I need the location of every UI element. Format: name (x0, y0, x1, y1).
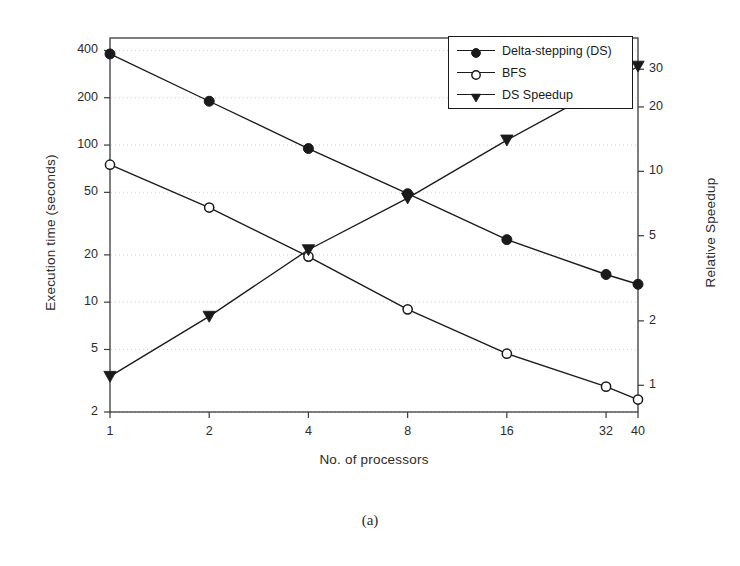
filled-triangle-marker-icon (457, 88, 495, 102)
data-point-marker (205, 203, 214, 212)
x-tick-label: 40 (616, 424, 660, 438)
legend-label-ds-speedup: DS Speedup (502, 88, 573, 102)
y-tick-label-right: 5 (649, 228, 693, 242)
filled-circle-marker-icon (457, 44, 495, 58)
y-tick-label-left: 50 (54, 184, 98, 198)
data-point-marker (601, 270, 611, 280)
data-point-marker (104, 371, 116, 382)
legend-item-ds-speedup: DS Speedup (457, 85, 573, 105)
x-tick-label: 1 (88, 424, 132, 438)
data-point-marker (403, 305, 412, 314)
series-line-1 (110, 165, 638, 400)
series-line-2 (110, 66, 638, 376)
y-tick-label-left: 400 (54, 42, 98, 56)
data-point-marker (203, 311, 215, 322)
y-tick-label-right: 10 (649, 163, 693, 177)
data-point-marker (632, 61, 644, 72)
x-tick-label: 8 (386, 424, 430, 438)
data-point-marker (401, 193, 413, 204)
x-tick-label: 16 (485, 424, 529, 438)
chart-legend: Delta-stepping (DS) BFS (448, 36, 633, 109)
data-point-marker (502, 349, 511, 358)
x-tick-label: 4 (286, 424, 330, 438)
open-circle-marker-icon (457, 66, 495, 80)
y-tick-label-left: 10 (54, 294, 98, 308)
figure-caption: (a) (0, 512, 740, 529)
y-tick-label-left: 200 (54, 90, 98, 104)
y-tick-label-left: 5 (54, 341, 98, 355)
data-point-marker (633, 395, 642, 404)
y-tick-label-left: 20 (54, 247, 98, 261)
x-axis-label: No. of processors (110, 452, 638, 467)
figure-panel: Execution time (seconds) Relative Speedu… (0, 0, 740, 566)
y-axis-label-right: Relative Speedup (703, 123, 718, 343)
data-point-marker (601, 382, 610, 391)
y-tick-label-right: 30 (649, 61, 693, 75)
y-tick-label-right: 20 (649, 99, 693, 113)
y-tick-label-right: 2 (649, 313, 693, 327)
legend-label-bfs: BFS (502, 66, 526, 80)
data-point-marker (501, 135, 513, 146)
y-tick-label-right: 1 (649, 377, 693, 391)
y-tick-label-left: 100 (54, 137, 98, 151)
y-axis-label-left: Execution time (seconds) (43, 123, 58, 343)
y-tick-label-left: 2 (54, 404, 98, 418)
legend-item-bfs: BFS (457, 63, 526, 83)
data-point-marker (105, 49, 115, 59)
data-point-marker (502, 235, 512, 245)
x-tick-label: 2 (187, 424, 231, 438)
data-point-marker (633, 279, 643, 289)
legend-label-delta-stepping: Delta-stepping (DS) (502, 44, 612, 58)
legend-item-delta-stepping: Delta-stepping (DS) (457, 41, 612, 61)
data-point-marker (204, 96, 214, 106)
data-point-marker (105, 160, 114, 169)
data-point-marker (303, 144, 313, 154)
